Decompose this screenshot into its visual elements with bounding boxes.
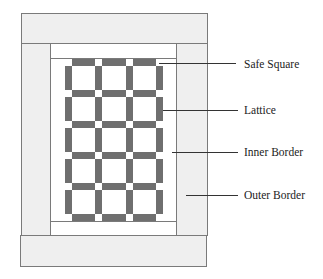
quilt-block xyxy=(72,159,95,183)
safe-square xyxy=(95,121,102,128)
quilt-block xyxy=(72,97,95,121)
quilt-block xyxy=(102,97,125,121)
quilt-block xyxy=(133,159,156,183)
safe-square xyxy=(156,152,163,159)
outer-border-left xyxy=(21,43,51,236)
quilt-block xyxy=(133,190,156,214)
safe-square xyxy=(156,121,163,128)
quilt-block xyxy=(133,66,156,90)
safe-square xyxy=(65,59,72,66)
safe-square xyxy=(126,214,133,221)
quilt-block xyxy=(102,128,125,152)
safe-square xyxy=(156,214,163,221)
safe-square xyxy=(65,152,72,159)
safe-square xyxy=(95,183,102,190)
safe-square xyxy=(95,59,102,66)
leader-line-inner-border xyxy=(172,152,238,153)
safe-square xyxy=(156,90,163,97)
safe-square xyxy=(126,121,133,128)
safe-square xyxy=(126,152,133,159)
label-safe-square: Safe Square xyxy=(244,58,299,70)
safe-square xyxy=(65,214,72,221)
safe-square xyxy=(156,183,163,190)
quilt-block xyxy=(72,128,95,152)
safe-square xyxy=(126,90,133,97)
outer-border-bottom xyxy=(20,235,207,267)
label-outer-border: Outer Border xyxy=(244,189,305,201)
quilt-block xyxy=(102,159,125,183)
leader-line-outer-border xyxy=(186,195,238,196)
safe-square xyxy=(95,90,102,97)
quilt-block xyxy=(133,128,156,152)
leader-line-lattice xyxy=(163,110,238,111)
lattice xyxy=(65,59,163,221)
safe-square xyxy=(95,152,102,159)
safe-square xyxy=(95,214,102,221)
quilt-block xyxy=(102,190,125,214)
safe-square xyxy=(65,90,72,97)
quilt-block xyxy=(72,190,95,214)
quilt-block xyxy=(133,97,156,121)
label-inner-border: Inner Border xyxy=(244,146,303,158)
quilt-block xyxy=(102,66,125,90)
inner-border-bottom-line xyxy=(50,221,177,222)
safe-square xyxy=(65,183,72,190)
leader-line-safe-square xyxy=(159,63,236,64)
quilt-block xyxy=(72,66,95,90)
label-lattice: Lattice xyxy=(244,104,276,116)
safe-square xyxy=(65,121,72,128)
safe-square xyxy=(126,183,133,190)
outer-border-top xyxy=(21,13,208,44)
outer-border-right xyxy=(176,43,208,236)
safe-square xyxy=(126,59,133,66)
